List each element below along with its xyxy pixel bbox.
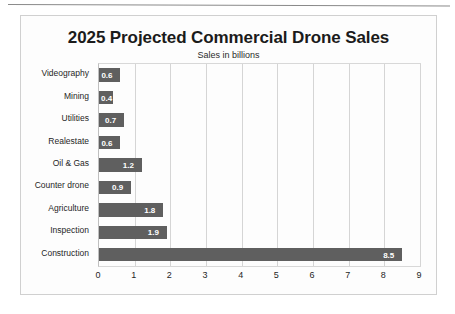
scan-artifact-line [8, 4, 450, 6]
bar-value-label: 8.5 [383, 250, 394, 259]
bar[interactable] [99, 158, 142, 171]
x-axis-tick: 8 [381, 270, 386, 280]
bar-row[interactable]: 8.5 [99, 248, 420, 261]
bar-value-label: 0.4 [101, 93, 112, 102]
x-axis-tick: 6 [309, 270, 314, 280]
gridline [420, 64, 421, 266]
x-axis-tick: 5 [274, 270, 279, 280]
category-label: Utilities [16, 113, 94, 123]
bars-layer: 0.60.40.70.61.20.91.81.98.5 [99, 64, 420, 266]
plot-area: 0.60.40.70.61.20.91.81.98.5 [98, 63, 421, 267]
bar-row[interactable]: 1.8 [99, 203, 420, 216]
bar-row[interactable]: 0.4 [99, 91, 420, 104]
bar-value-label: 0.6 [101, 71, 112, 80]
category-label: Oil & Gas [16, 158, 94, 168]
x-axis-tick-labels: 0123456789 [98, 270, 421, 286]
chart-frame: 2025 Projected Commercial Drone Sales Sa… [20, 15, 437, 295]
category-label: Realestate [16, 136, 94, 146]
bar[interactable] [99, 248, 402, 261]
bar-value-label: 1.2 [123, 160, 134, 169]
bar-value-label: 0.6 [101, 138, 112, 147]
category-label: Counter drone [16, 180, 94, 190]
bar-row[interactable]: 0.7 [99, 113, 420, 126]
bar-value-label: 1.9 [148, 228, 159, 237]
x-axis-tick: 1 [131, 270, 136, 280]
chart-title: 2025 Projected Commercial Drone Sales [21, 28, 436, 48]
x-axis-tick: 7 [345, 270, 350, 280]
bar-row[interactable]: 0.9 [99, 181, 420, 194]
x-axis-tick: 2 [167, 270, 172, 280]
category-label: Inspection [16, 225, 94, 235]
x-axis-tick: 3 [202, 270, 207, 280]
category-label: Construction [16, 248, 94, 258]
bar-row[interactable]: 0.6 [99, 68, 420, 81]
category-label: Agriculture [16, 203, 94, 213]
category-label: Videography [16, 68, 94, 78]
bar-row[interactable]: 1.9 [99, 226, 420, 239]
x-axis-tick: 4 [238, 270, 243, 280]
chart-subtitle: Sales in billions [21, 50, 436, 60]
category-axis: VideographyMiningUtilitiesRealestateOil … [21, 63, 94, 267]
x-axis-tick: 9 [416, 270, 421, 280]
bar-row[interactable]: 0.6 [99, 136, 420, 149]
category-label: Mining [16, 91, 94, 101]
bar-value-label: 1.8 [144, 205, 155, 214]
bar-value-label: 0.7 [105, 116, 116, 125]
bar-value-label: 0.9 [112, 183, 123, 192]
x-axis-tick: 0 [95, 270, 100, 280]
bar-row[interactable]: 1.2 [99, 158, 420, 171]
